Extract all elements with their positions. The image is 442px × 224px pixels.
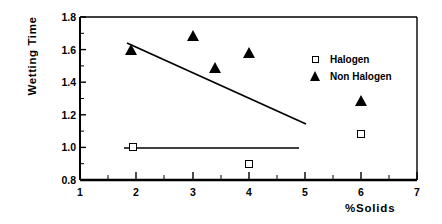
data-point-marker (243, 47, 255, 58)
open-square-icon (308, 52, 322, 66)
legend-label: Non Halogen (330, 71, 392, 82)
data-point-marker (125, 44, 137, 55)
data-point-marker (357, 130, 365, 138)
trend-lines (124, 43, 306, 148)
data-point-marker (245, 160, 253, 168)
filled-triangle-icon (308, 69, 322, 83)
legend-item-halogen: Halogen (308, 52, 392, 66)
chart-figure: Wetting Time 1.8 1.6 1.4 1.2 1.0 0.8 1 2… (0, 0, 442, 224)
legend-item-non-halogen: Non Halogen (308, 69, 392, 83)
legend-label: Halogen (330, 54, 369, 65)
data-point-marker (355, 95, 367, 106)
plot-canvas (0, 0, 442, 224)
non-halogen-trend-line (127, 43, 306, 124)
data-point-marker (209, 62, 221, 73)
data-point-marker (129, 143, 137, 151)
data-point-marker (187, 30, 199, 41)
chart-legend: Halogen Non Halogen (308, 52, 392, 86)
